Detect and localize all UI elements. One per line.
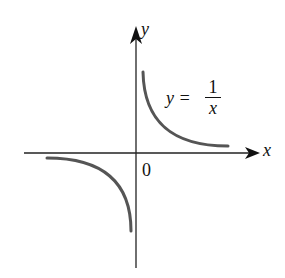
fraction-denominator: x bbox=[205, 99, 221, 117]
curve-negative-branch bbox=[47, 158, 131, 231]
origin-label: 0 bbox=[142, 161, 151, 179]
y-axis-label: y bbox=[141, 20, 149, 38]
x-axis-label: x bbox=[263, 141, 271, 159]
function-label-lhs: y = bbox=[166, 89, 191, 107]
function-label-fraction: 1 x bbox=[205, 78, 221, 117]
fraction-numerator: 1 bbox=[205, 78, 221, 96]
hyperbola-graph bbox=[0, 0, 285, 278]
